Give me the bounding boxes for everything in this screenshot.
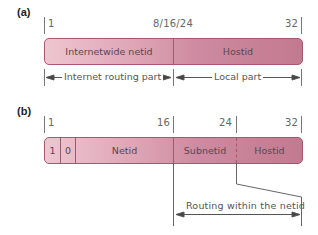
span-routing-within-netid: Routing within the netid (186, 200, 305, 211)
